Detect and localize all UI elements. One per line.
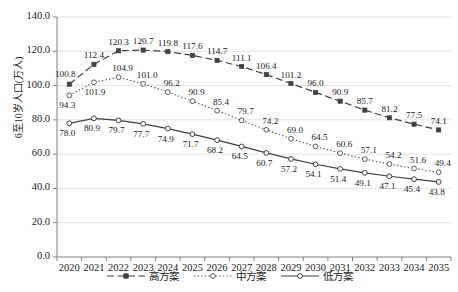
data-label-低方案: 68.2 <box>202 145 228 155</box>
legend-label: 中方案 <box>236 268 266 283</box>
data-label-中方案: 54.2 <box>380 150 406 160</box>
data-label-高方案: 96.0 <box>303 78 329 88</box>
data-label-中方案: 79.7 <box>233 106 259 116</box>
y-tick-label: 40.0 <box>10 181 50 192</box>
y-tick-label: 20.0 <box>10 216 50 227</box>
y-tick-label: 120.0 <box>10 44 50 55</box>
legend-item-高方案[interactable]: 高方案 <box>106 268 179 283</box>
data-label-中方案: 49.4 <box>430 158 456 168</box>
data-label-低方案: 79.7 <box>104 125 130 135</box>
legend-item-中方案[interactable]: 中方案 <box>193 268 266 283</box>
data-label-中方案: 96.2 <box>159 78 185 88</box>
data-label-低方案: 80.9 <box>79 123 105 133</box>
data-label-高方案: 90.9 <box>327 87 353 97</box>
legend-swatch-icon <box>106 270 146 282</box>
data-label-中方案: 101.9 <box>82 87 108 97</box>
data-label-中方案: 104.9 <box>110 63 136 73</box>
data-label-高方案: 117.6 <box>179 41 205 51</box>
data-label-低方案: 47.1 <box>374 181 400 191</box>
data-label-高方案: 120.7 <box>130 36 156 46</box>
data-label-高方案: 106.4 <box>253 61 279 71</box>
line-chart: 6至10岁人口(万人) 0.020.040.060.080.0100.0120.… <box>0 0 458 292</box>
data-label-中方案: 51.6 <box>405 155 431 165</box>
plot-canvas <box>0 0 458 292</box>
legend-swatch-icon <box>193 270 233 282</box>
y-tick-label: 0.0 <box>10 250 50 261</box>
y-tick-label: 100.0 <box>10 79 50 90</box>
data-label-中方案: 101.0 <box>134 70 160 80</box>
data-label-高方案: 114.7 <box>204 46 230 56</box>
legend-item-低方案[interactable]: 低方案 <box>280 268 353 283</box>
data-label-低方案: 74.9 <box>153 134 179 144</box>
data-label-中方案: 90.9 <box>183 87 209 97</box>
data-label-高方案: 112.4 <box>81 50 107 60</box>
data-label-低方案: 49.1 <box>350 178 376 188</box>
data-label-高方案: 101.2 <box>278 70 304 80</box>
data-label-低方案: 54.1 <box>301 169 327 179</box>
legend-swatch-icon <box>280 270 320 282</box>
data-label-低方案: 43.8 <box>424 187 450 197</box>
data-label-低方案: 57.2 <box>276 164 302 174</box>
legend-label: 低方案 <box>323 268 353 283</box>
data-label-低方案: 45.4 <box>399 184 425 194</box>
data-label-低方案: 77.7 <box>128 129 154 139</box>
data-label-高方案: 77.5 <box>401 110 427 120</box>
data-label-中方案: 94.3 <box>54 100 80 110</box>
data-label-低方案: 64.5 <box>227 151 253 161</box>
data-label-高方案: 81.2 <box>376 104 402 114</box>
data-label-中方案: 74.2 <box>257 116 283 126</box>
y-tick-label: 80.0 <box>10 113 50 124</box>
data-label-低方案: 71.7 <box>177 139 203 149</box>
data-label-中方案: 64.5 <box>307 132 333 142</box>
y-tick-label: 60.0 <box>10 147 50 158</box>
data-label-中方案: 69.0 <box>282 125 308 135</box>
data-label-低方案: 60.7 <box>251 158 277 168</box>
legend-label: 高方案 <box>149 268 179 283</box>
data-label-中方案: 60.6 <box>331 139 357 149</box>
data-label-高方案: 111.1 <box>229 53 255 63</box>
data-label-高方案: 119.8 <box>155 38 181 48</box>
data-label-高方案: 85.7 <box>352 96 378 106</box>
data-label-低方案: 78.0 <box>54 128 80 138</box>
data-label-中方案: 57.1 <box>356 145 382 155</box>
data-label-低方案: 51.4 <box>325 174 351 184</box>
chart-legend: 高方案中方案低方案 <box>0 268 458 283</box>
y-tick-label: 140.0 <box>10 10 50 21</box>
data-label-高方案: 100.8 <box>52 69 78 79</box>
data-label-高方案: 120.3 <box>106 37 132 47</box>
data-label-中方案: 85.4 <box>208 97 234 107</box>
data-label-高方案: 74.1 <box>426 116 452 126</box>
